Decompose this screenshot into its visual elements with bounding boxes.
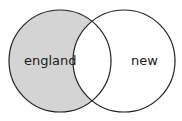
venn-diagram: england new [0, 0, 182, 121]
england-label: england [24, 53, 77, 68]
new-label: new [131, 53, 158, 68]
